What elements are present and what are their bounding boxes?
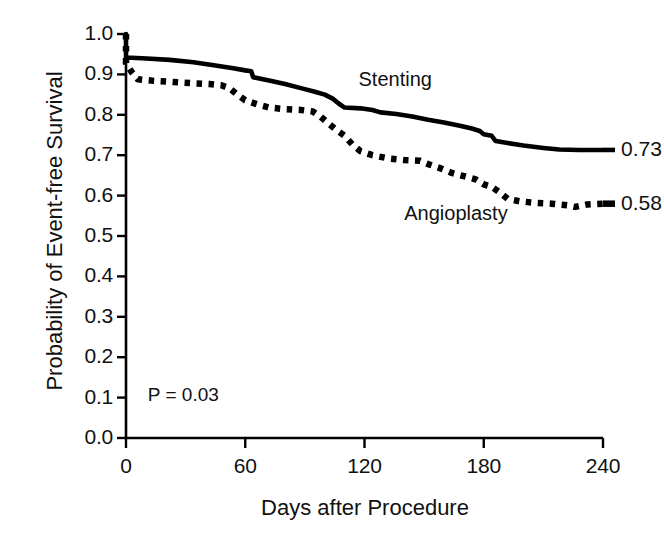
- y-tick-label: 0.5: [57, 223, 113, 247]
- survival-curve-figure: Probability of Event-free Survival Days …: [0, 0, 664, 545]
- series-line-angioplasty: [126, 34, 603, 207]
- x-axis-ticks: [126, 438, 603, 448]
- end-value-label-stenting: 0.73: [621, 137, 662, 161]
- y-tick-label: 0.3: [57, 304, 113, 328]
- x-tick-label: 0: [96, 454, 156, 478]
- y-tick-label: 0.0: [57, 425, 113, 449]
- x-tick-label: 120: [335, 454, 395, 478]
- data-series-group: [126, 34, 615, 207]
- series-line-stenting: [126, 34, 603, 150]
- x-tick-label: 180: [454, 454, 514, 478]
- y-axis-ticks: [117, 34, 126, 438]
- series-label-angioplasty: Angioplasty: [404, 202, 507, 225]
- y-tick-label: 0.6: [57, 183, 113, 207]
- series-label-stenting: Stenting: [359, 68, 432, 91]
- p-value-annotation: P = 0.03: [148, 384, 219, 406]
- y-tick-label: 0.2: [57, 344, 113, 368]
- y-tick-label: 0.1: [57, 385, 113, 409]
- y-tick-label: 0.8: [57, 102, 113, 126]
- y-tick-label: 0.7: [57, 142, 113, 166]
- x-axis-title: Days after Procedure: [126, 495, 604, 521]
- y-tick-label: 0.9: [57, 61, 113, 85]
- y-tick-label: 0.4: [57, 263, 113, 287]
- x-tick-label: 240: [573, 454, 633, 478]
- y-tick-label: 1.0: [57, 21, 113, 45]
- end-value-label-angioplasty: 0.58: [621, 191, 662, 215]
- x-tick-label: 60: [215, 454, 275, 478]
